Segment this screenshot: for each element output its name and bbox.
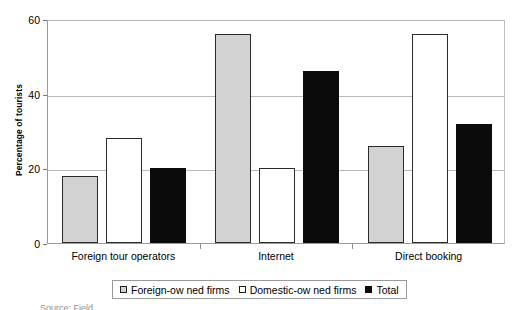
- bar: [106, 138, 142, 243]
- legend-swatch-icon-foreign: [120, 286, 127, 293]
- y-tick-label: 0: [6, 239, 40, 249]
- bar-chart: Percentage of tourists 0204060 Foreign t…: [0, 0, 518, 310]
- x-axis-label: Internet: [200, 250, 353, 262]
- bar: [368, 146, 404, 243]
- chart-legend: Foreign-ow ned firms Domestic-ow ned fir…: [112, 280, 407, 299]
- x-tick-mark: [200, 244, 201, 249]
- bar: [456, 124, 492, 243]
- legend-item-foreign-owned-firms: Foreign-ow ned firms: [120, 284, 230, 296]
- clipped-source-caption: Source: Field: [40, 303, 93, 310]
- legend-label-domestic: Domestic-ow ned firms: [250, 284, 357, 296]
- y-tick-mark: [43, 20, 47, 21]
- x-axis-label: Direct booking: [352, 250, 505, 262]
- y-tick-mark: [43, 169, 47, 170]
- legend-label-foreign: Foreign-ow ned firms: [131, 284, 230, 296]
- y-tick-label: 60: [6, 15, 40, 25]
- plot-inner: [48, 21, 504, 243]
- bar: [150, 168, 186, 243]
- x-tick-mark: [352, 244, 353, 249]
- legend-label-total: Total: [376, 284, 398, 296]
- legend-swatch-icon-domestic: [239, 286, 246, 293]
- y-tick-mark: [43, 244, 47, 245]
- bar: [215, 34, 251, 243]
- x-axis-label: Foreign tour operators: [47, 250, 200, 262]
- y-tick-mark: [43, 95, 47, 96]
- y-tick-label: 40: [6, 90, 40, 100]
- bar: [412, 34, 448, 243]
- plot-area: [47, 20, 505, 244]
- y-tick-label: 20: [6, 164, 40, 174]
- legend-swatch-icon-total: [365, 286, 372, 293]
- bar: [303, 71, 339, 243]
- y-axis-title: Percentage of tourists: [14, 40, 24, 220]
- bar: [259, 168, 295, 243]
- legend-item-total: Total: [365, 284, 398, 296]
- bar: [62, 176, 98, 243]
- legend-item-domestic-owned-firms: Domestic-ow ned firms: [239, 284, 357, 296]
